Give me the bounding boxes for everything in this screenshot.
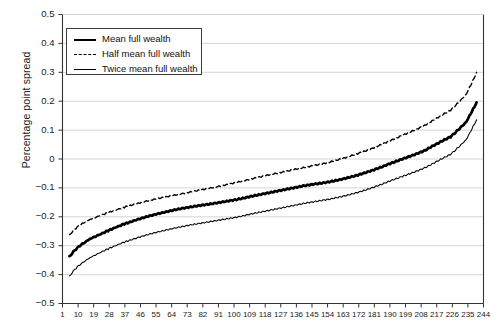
series-line bbox=[69, 102, 476, 256]
legend-item-mean-full-wealth: Mean full wealth bbox=[74, 31, 171, 46]
legend-line-bold-icon bbox=[74, 33, 96, 45]
y-tick-label: 0.1 bbox=[21, 124, 55, 135]
legend-line-thin-icon bbox=[74, 63, 96, 75]
y-tick-label: −0.3 bbox=[21, 239, 55, 250]
y-tick-label: −0.5 bbox=[21, 297, 55, 308]
y-tick-label: 0 bbox=[21, 153, 55, 164]
legend-label: Twice mean full wealth bbox=[102, 63, 198, 74]
y-tick-label: 0.4 bbox=[21, 37, 55, 48]
y-tick-label: −0.4 bbox=[21, 268, 55, 279]
legend-line-dashed-icon bbox=[74, 48, 96, 60]
x-tick-label: 244 bbox=[471, 310, 497, 319]
x-tick-marks bbox=[63, 304, 484, 308]
series-line bbox=[69, 120, 476, 276]
legend-item-half-mean-full-wealth: Half mean full wealth bbox=[74, 46, 190, 61]
y-tick-label: 0.5 bbox=[21, 8, 55, 19]
chart-container: Percentage point spread 0.50.40.30.20.10… bbox=[0, 0, 497, 336]
y-tick-label: 0.3 bbox=[21, 66, 55, 77]
legend-label: Half mean full wealth bbox=[102, 48, 190, 59]
y-tick-label: 0.2 bbox=[21, 95, 55, 106]
y-tick-marks bbox=[59, 15, 63, 304]
legend-item-twice-mean-full-wealth: Twice mean full wealth bbox=[74, 61, 198, 76]
legend-label: Mean full wealth bbox=[102, 33, 171, 44]
gridlines bbox=[63, 43, 484, 274]
y-tick-label: −0.2 bbox=[21, 210, 55, 221]
y-tick-label: −0.1 bbox=[21, 181, 55, 192]
chart-legend: Mean full wealth Half mean full wealth T… bbox=[66, 28, 202, 75]
